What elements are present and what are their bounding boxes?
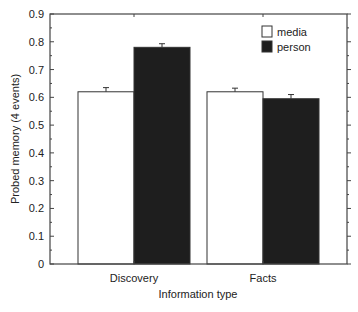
bar-media-discovery [78,92,134,264]
bar-person-discovery [134,47,190,264]
y-axis-title: Probed memory (4 events) [9,74,21,204]
bar-media-facts [207,92,263,264]
legend: mediaperson [262,26,311,53]
y-tick-label: 0.8 [29,36,44,48]
x-tick-label: Discovery [110,272,159,284]
y-tick-label: 0.2 [29,202,44,214]
y-tick-label: 0.4 [29,147,44,159]
bar-chart: 00.10.20.30.40.50.60.70.80.9 DiscoveryFa… [0,0,358,312]
y-tick-label: 0.1 [29,230,44,242]
legend-swatch-person [262,41,272,52]
bar-person-facts [263,99,319,264]
y-tick-label: 0.6 [29,91,44,103]
y-tick-label: 0.5 [29,119,44,131]
y-tick-label: 0.9 [29,8,44,20]
x-tick-label: Facts [250,272,277,284]
x-axis-title: Information type [159,288,238,300]
legend-label-person: person [277,41,311,53]
y-tick-label: 0 [38,258,44,270]
y-tick-label: 0.7 [29,64,44,76]
legend-swatch-media [262,26,272,37]
legend-label-media: media [277,26,308,38]
y-tick-label: 0.3 [29,175,44,187]
x-axis-labels: DiscoveryFacts [110,272,277,284]
